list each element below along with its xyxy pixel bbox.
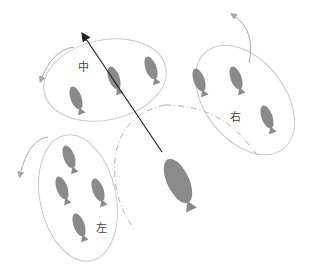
label-right: 右: [230, 112, 241, 123]
fish-middle-3: [142, 55, 162, 86]
fish-middle-1: [67, 85, 87, 116]
label-middle: 中: [78, 62, 89, 73]
turn-arrow-right: [233, 15, 251, 63]
label-left: 左: [96, 223, 107, 234]
group-middle-outline: [36, 28, 174, 132]
fish-left-4: [70, 212, 90, 243]
group-right-outline: [175, 27, 311, 174]
dashdot-path-right: [165, 105, 262, 160]
dashdot-path: [115, 105, 165, 230]
fish-middle-2: [105, 65, 125, 96]
group-left-outline: [28, 127, 129, 268]
fish-left-1: [60, 144, 80, 175]
fish-leader: [158, 155, 202, 215]
fish-right-3: [258, 104, 278, 135]
diagram-canvas: [0, 0, 311, 275]
fish-left-3: [89, 177, 109, 208]
fish-left-2: [53, 175, 73, 206]
fish-right-2: [227, 65, 247, 96]
fish-school-diagram: 中 右 左: [0, 0, 311, 275]
fish-right-1: [190, 67, 210, 98]
direction-arrow: [84, 36, 162, 152]
